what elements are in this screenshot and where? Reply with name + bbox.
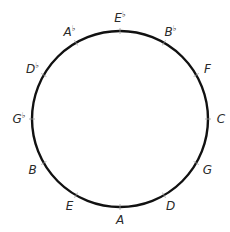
flat-accidental: ♭ xyxy=(122,10,126,19)
note-letter: D xyxy=(166,199,175,213)
note-letter: D xyxy=(26,62,35,76)
note-label-d: D xyxy=(166,199,175,213)
note-label-b: B xyxy=(28,163,36,177)
fifths-circle xyxy=(32,31,208,207)
note-letter: A xyxy=(115,213,124,227)
tick-marks xyxy=(29,28,211,210)
note-label-a-flat: A♭ xyxy=(63,23,76,38)
note-labels: E♭B♭FCGDAEBG♭D♭A♭ xyxy=(12,10,225,228)
note-letter: F xyxy=(204,62,212,76)
note-label-e: E xyxy=(66,199,74,213)
note-label-a: A xyxy=(115,213,124,227)
note-label-b-flat: B♭ xyxy=(164,23,176,38)
note-letter: G xyxy=(12,112,21,126)
flat-accidental: ♭ xyxy=(35,60,39,69)
note-label-g: G xyxy=(203,163,212,177)
note-label-g-flat: G♭ xyxy=(12,111,25,127)
circle-of-fifths-diagram: E♭B♭FCGDAEBG♭D♭A♭ xyxy=(0,0,230,232)
note-letter: B xyxy=(164,25,172,39)
note-letter: G xyxy=(203,163,212,177)
note-letter: A xyxy=(63,25,72,39)
flat-accidental: ♭ xyxy=(173,23,177,32)
note-letter: C xyxy=(217,112,226,126)
flat-accidental: ♭ xyxy=(72,23,76,32)
note-letter: B xyxy=(28,163,36,177)
note-label-e-flat: E♭ xyxy=(114,10,126,26)
note-letter: E xyxy=(66,199,74,213)
note-label-c: C xyxy=(217,112,226,126)
flat-accidental: ♭ xyxy=(22,111,26,120)
note-label-d-flat: D♭ xyxy=(26,60,39,76)
note-label-f: F xyxy=(204,62,212,76)
